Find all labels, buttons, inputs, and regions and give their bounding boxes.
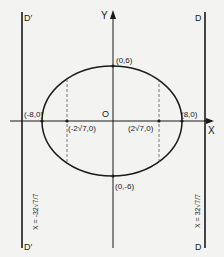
right-vertex-label: (8,0): [181, 110, 198, 119]
y-axis-label: Y: [101, 10, 108, 21]
left-vertex-point: [40, 119, 43, 122]
right-directrix-top-label: D: [195, 13, 202, 23]
ellipse-diagram: Y X O (-8,0) (8,0) (0,6) (0,-6) (-2√7,0)…: [0, 0, 224, 257]
right-directrix-bottom-label: D: [195, 242, 202, 252]
x-axis-arrow-icon: [206, 118, 214, 124]
bottom-vertex-point: [111, 174, 114, 177]
left-directrix-equation: X = -32√7/7: [32, 194, 39, 230]
right-focus-label: (2√7,0): [128, 124, 154, 133]
left-focus-point: [65, 119, 68, 122]
right-directrix-equation: X = 32√7/7: [194, 194, 201, 228]
bottom-vertex-label: (0,-6): [115, 182, 134, 191]
left-vertex-label: (-8,0): [24, 110, 43, 119]
right-vertex-point: [180, 119, 183, 122]
x-axis-label: X: [208, 125, 215, 136]
left-focus-label: (-2√7,0): [68, 124, 96, 133]
top-vertex-point: [111, 64, 114, 67]
left-directrix-bottom-label: D′: [24, 242, 32, 252]
right-focus-point: [157, 119, 160, 122]
top-vertex-label: (0,6): [116, 56, 133, 65]
origin-label: O: [102, 109, 109, 119]
y-axis-arrow-icon: [110, 10, 116, 19]
left-directrix-top-label: D′: [24, 13, 32, 23]
